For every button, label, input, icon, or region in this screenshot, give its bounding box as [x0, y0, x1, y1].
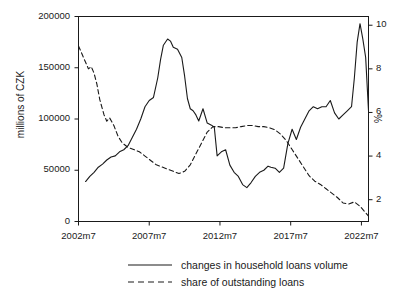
plot-border — [79, 17, 369, 222]
y-axis-left-ticks — [75, 17, 79, 222]
x-axis-tick-label: 2012m7 — [185, 230, 255, 241]
data-series-group — [79, 24, 369, 216]
x-axis-tick-label: 2022m7 — [326, 230, 396, 241]
series-line — [79, 46, 369, 216]
series-line — [86, 24, 369, 188]
plot-canvas — [0, 0, 419, 299]
y-axis-left-tick-label: 200000 — [14, 10, 70, 21]
y-axis-left-tick-label: 50000 — [14, 163, 70, 174]
y-axis-left-tick-label: 100000 — [14, 112, 70, 123]
legend-label: share of outstanding loans — [181, 276, 304, 288]
x-axis-tick-label: 2007m7 — [114, 230, 184, 241]
x-axis-tick-label: 2002m7 — [44, 230, 114, 241]
legend-swatch-solid-line-icon — [128, 260, 172, 270]
plot-frame — [79, 17, 369, 222]
x-axis-ticks — [79, 222, 362, 226]
y-axis-right-tick-label: 6 — [376, 105, 402, 116]
legend-item-share-of-outstanding-loans: share of outstanding loans — [0, 273, 419, 290]
y-axis-right-tick-label: 4 — [376, 149, 402, 160]
y-axis-right-tick-label: 8 — [376, 62, 402, 73]
chart-legend: changes in household loans volume share … — [0, 256, 419, 290]
x-axis-tick-label: 2017m7 — [256, 230, 326, 241]
y-axis-left-tick-label: 150000 — [14, 61, 70, 72]
legend-item-changes-in-household-loans-volume: changes in household loans volume — [0, 256, 419, 273]
y-axis-left-tick-label: 0 — [14, 215, 70, 226]
chart-figure: millions of CZK % 0500001000001500002000… — [0, 0, 419, 299]
legend-label: changes in household loans volume — [181, 259, 348, 271]
y-axis-right-tick-label: 10 — [376, 18, 402, 29]
legend-swatch-dashed-line-icon — [128, 277, 172, 287]
y-axis-right-tick-label: 2 — [376, 193, 402, 204]
